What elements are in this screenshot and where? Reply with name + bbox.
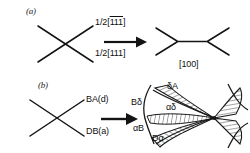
label-burgers-lower-indices: 111	[110, 48, 123, 58]
label-burgers-lower: 1/2[111]	[95, 49, 125, 58]
label-ba-d: BA(d)	[86, 95, 109, 104]
panel-a: (a) 1/2[111]	[0, 0, 250, 76]
label-burgers-upper-prefix: 1/2[	[95, 17, 110, 27]
reacted-node-pair-graphic	[156, 28, 229, 55]
reaction-arrow-a	[104, 37, 147, 48]
node-point	[212, 116, 216, 120]
label-alpha-b: αB	[133, 124, 144, 133]
label-b-delta: Bδ	[131, 98, 142, 107]
ribbon-delta-a	[155, 85, 214, 118]
label-burgers-lower-suffix: ]	[123, 48, 125, 58]
label-burgers-lower-prefix: 1/2[	[95, 48, 110, 58]
label-d-alpha: Dα	[152, 134, 164, 143]
ribbon-right-upper	[214, 88, 242, 118]
panel-a-graphics	[0, 0, 250, 76]
label-burgers-upper: 1/2[111]	[95, 18, 125, 27]
figure-root: (a) 1/2[111]	[0, 0, 250, 153]
label-alpha-delta: αδ	[166, 103, 176, 112]
panel-b: (b)	[0, 76, 250, 153]
label-product-direction: [100]	[179, 60, 199, 69]
panel-b-graphics	[0, 76, 250, 153]
label-delta-a: δA	[167, 82, 178, 91]
label-db-a: DB(a)	[86, 127, 109, 136]
label-burgers-upper-suffix: ]	[123, 17, 125, 27]
label-burgers-upper-indices: 111	[110, 17, 123, 27]
